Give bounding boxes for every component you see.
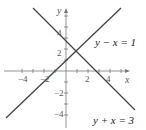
x-axis-arrow-icon (125, 69, 130, 73)
y-axis (64, 10, 68, 128)
y-tick-label: 2 (57, 48, 62, 58)
y-axis-label: y (56, 5, 62, 16)
x-tick-label: −4 (18, 74, 28, 84)
line-y-plus-x-eq-3 (33, 8, 135, 110)
y-tick-label: −4 (54, 109, 64, 119)
line-y-minus-x-eq-1 (6, 8, 121, 118)
x-tick-label: 2 (85, 74, 90, 84)
equation-label-2: y + x = 3 (92, 114, 135, 126)
y-tick-label: 4 (57, 28, 62, 38)
chart: −4 −2 2 4 4 2 −2 −4 x y y − x = 1 y + x … (0, 0, 146, 130)
y-axis-arrow-icon (64, 8, 68, 13)
y-tick-label: −2 (54, 88, 64, 98)
x-tick-label: −2 (40, 74, 50, 84)
x-axis-label: x (124, 74, 130, 85)
x-tick-label: 4 (106, 74, 111, 84)
equation-label-1: y − x = 1 (94, 36, 136, 48)
